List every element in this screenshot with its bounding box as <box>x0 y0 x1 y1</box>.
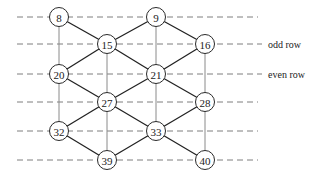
row-label: odd row <box>268 39 302 50</box>
node-label: 20 <box>54 69 66 81</box>
node-label: 15 <box>102 39 114 51</box>
node-label: 9 <box>153 12 159 24</box>
node-label: 16 <box>200 39 212 51</box>
node-label: 21 <box>151 69 162 81</box>
node-39: 39 <box>98 151 117 170</box>
node-8: 8 <box>50 8 69 27</box>
vertical-links <box>59 17 205 160</box>
row-label: even row <box>268 69 306 80</box>
diagonal-edges <box>59 17 205 160</box>
node-label: 8 <box>56 12 62 24</box>
node-21: 21 <box>147 65 166 84</box>
node-15: 15 <box>98 35 117 54</box>
node-label: 40 <box>200 155 212 167</box>
node-32: 32 <box>50 122 69 141</box>
node-label: 33 <box>151 126 163 138</box>
node-label: 39 <box>102 155 114 167</box>
node-40: 40 <box>196 151 215 170</box>
node-33: 33 <box>147 122 166 141</box>
node-label: 32 <box>54 126 65 138</box>
row-labels: odd roweven row <box>268 39 306 80</box>
hex-grid-diagram: 8915162021272832333940 odd roweven row <box>0 0 312 177</box>
node-9: 9 <box>147 8 166 27</box>
node-27: 27 <box>98 93 117 112</box>
node-label: 28 <box>200 97 212 109</box>
node-label: 27 <box>102 97 114 109</box>
node-20: 20 <box>50 65 69 84</box>
node-28: 28 <box>196 93 215 112</box>
node-16: 16 <box>196 35 215 54</box>
